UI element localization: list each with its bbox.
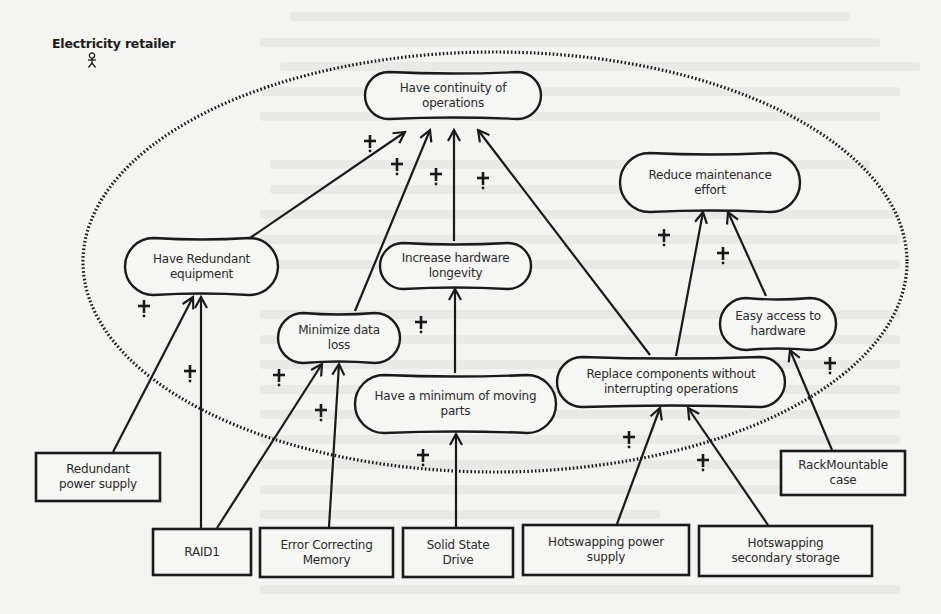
contribution-link-access-to-maintenance bbox=[717, 212, 766, 296]
contribution-link-longevity-to-continuity bbox=[430, 130, 454, 241]
softgoal-label-replace: Replace components withoutinterrupting o… bbox=[557, 357, 785, 407]
plus-contribution-icon bbox=[658, 229, 670, 246]
softgoal-label-redundant: Have Redundantequipment bbox=[125, 238, 278, 295]
plus-contribution-icon bbox=[415, 316, 427, 333]
plus-contribution-icon bbox=[184, 365, 196, 382]
plus-contribution-icon bbox=[391, 158, 403, 175]
actor-stick-figure-icon bbox=[88, 53, 96, 68]
contribution-link-redundant-to-continuity bbox=[250, 132, 405, 238]
plus-contribution-icon bbox=[824, 357, 836, 374]
task-label-rps: Redundantpower supply bbox=[36, 453, 160, 501]
task-label-hps: Hotswapping powersupply bbox=[523, 525, 689, 575]
actor-label: Electricity retailer bbox=[52, 36, 176, 51]
contribution-link-hss-to-replace bbox=[688, 408, 768, 525]
contribution-link-movingparts-to-longevity bbox=[415, 289, 455, 373]
plus-contribution-icon bbox=[623, 431, 635, 448]
softgoal-label-dataloss: Minimize dataloss bbox=[278, 313, 400, 363]
softgoal-label-longevity: Increase hardwarelongevity bbox=[380, 243, 531, 289]
contribution-link-replace-to-maintenance bbox=[658, 212, 703, 356]
softgoal-label-continuity: Have continuity ofoperations bbox=[365, 72, 541, 119]
contribution-link-rps-to-redundant bbox=[113, 297, 193, 452]
contribution-link-ecc-to-dataloss bbox=[315, 364, 339, 527]
plus-contribution-icon bbox=[430, 168, 442, 185]
task-label-rack: RackMountablecase bbox=[781, 451, 905, 495]
task-label-ssd: Solid StateDrive bbox=[403, 528, 513, 577]
softgoal-label-maintenance: Reduce maintenanceeffort bbox=[620, 153, 800, 212]
task-label-raid: RAID1 bbox=[153, 529, 251, 575]
softgoal-label-access: Easy access tohardware bbox=[720, 298, 836, 350]
plus-contribution-icon bbox=[273, 369, 285, 386]
contribution-link-ssd-to-movingparts bbox=[417, 434, 456, 527]
plus-contribution-icon bbox=[697, 454, 709, 471]
plus-contribution-icon bbox=[717, 247, 729, 264]
plus-contribution-icon bbox=[138, 300, 150, 317]
task-label-ecc: Error CorrectingMemory bbox=[260, 528, 393, 577]
plus-contribution-icon bbox=[477, 172, 489, 189]
contribution-link-hps-to-replace bbox=[617, 408, 660, 524]
contribution-link-rack-to-access bbox=[790, 350, 836, 450]
plus-contribution-icon bbox=[364, 135, 376, 152]
task-label-hss: Hotswappingsecondary storage bbox=[699, 526, 872, 576]
softgoal-label-movingparts: Have a minimum of movingparts bbox=[355, 375, 556, 433]
plus-contribution-icon bbox=[417, 449, 429, 466]
contribution-link-raid-to-dataloss bbox=[217, 364, 322, 528]
plus-contribution-icon bbox=[315, 404, 327, 421]
contribution-link-raid-to-redundant bbox=[184, 297, 201, 528]
